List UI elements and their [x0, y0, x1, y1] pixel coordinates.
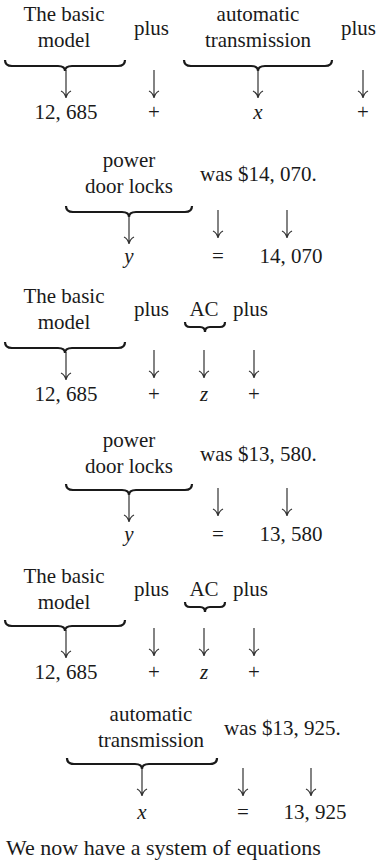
- value-total: 14, 070: [246, 244, 336, 268]
- label-transmission: transmission: [76, 728, 226, 752]
- down-arrow-icon: [122, 494, 136, 524]
- down-arrow-icon: [280, 210, 294, 240]
- label-was-total: was $13, 580.: [200, 442, 317, 466]
- label-plus: plus: [233, 297, 268, 321]
- equals-sign: =: [204, 522, 232, 546]
- label-automatic: automatic: [180, 2, 336, 26]
- label-the-basic: The basic: [0, 2, 128, 26]
- label-model: model: [0, 28, 128, 52]
- label-plus: plus: [341, 16, 376, 40]
- down-arrow-icon: [59, 70, 73, 100]
- down-arrow-icon: [197, 350, 211, 380]
- down-arrow-icon: [147, 350, 161, 380]
- variable-z: z: [190, 660, 218, 684]
- variable-z: z: [190, 382, 218, 406]
- plus-sign: +: [140, 660, 168, 684]
- equals-sign: =: [229, 800, 257, 824]
- body-text-line: We now have a system of equations: [6, 836, 321, 860]
- label-plus: plus: [134, 16, 169, 40]
- variable-x: x: [128, 800, 156, 824]
- down-arrow-icon: [356, 70, 370, 100]
- down-arrow-icon: [59, 352, 73, 382]
- label-model: model: [0, 590, 128, 614]
- down-arrow-icon: [251, 70, 265, 100]
- underbrace-icon: [184, 320, 226, 334]
- label-plus: plus: [233, 577, 268, 601]
- value-basic-price: 12, 685: [16, 100, 116, 124]
- down-arrow-icon: [135, 768, 149, 798]
- variable-x: x: [244, 100, 272, 124]
- label-door-locks: door locks: [66, 454, 192, 478]
- label-model: model: [0, 310, 128, 334]
- variable-y: y: [115, 244, 143, 268]
- down-arrow-icon: [304, 768, 318, 798]
- down-arrow-icon: [147, 628, 161, 658]
- underbrace-icon: [184, 600, 226, 614]
- variable-y: y: [115, 522, 143, 546]
- down-arrow-icon: [59, 630, 73, 660]
- down-arrow-icon: [197, 628, 211, 658]
- label-door-locks: door locks: [66, 174, 192, 198]
- down-arrow-icon: [247, 628, 261, 658]
- down-arrow-icon: [280, 488, 294, 518]
- plus-sign: +: [240, 382, 268, 406]
- value-total: 13, 580: [246, 522, 336, 546]
- label-transmission: transmission: [180, 28, 336, 52]
- plus-sign: +: [140, 100, 168, 124]
- label-power: power: [66, 148, 192, 172]
- label-the-basic: The basic: [0, 564, 128, 588]
- value-total: 13, 925: [270, 800, 360, 824]
- down-arrow-icon: [236, 768, 250, 798]
- label-power: power: [66, 428, 192, 452]
- label-plus: plus: [134, 297, 169, 321]
- plus-sign: +: [140, 382, 168, 406]
- plus-sign: +: [349, 100, 377, 124]
- equals-sign: =: [204, 244, 232, 268]
- value-basic-price: 12, 685: [16, 660, 116, 684]
- down-arrow-icon: [211, 488, 225, 518]
- value-basic-price: 12, 685: [16, 382, 116, 406]
- label-was-total: was $13, 925.: [224, 716, 341, 740]
- label-plus: plus: [134, 577, 169, 601]
- down-arrow-icon: [147, 70, 161, 100]
- down-arrow-icon: [247, 350, 261, 380]
- label-automatic: automatic: [76, 702, 226, 726]
- label-was-total: was $14, 070.: [200, 162, 317, 186]
- label-ac: AC: [186, 577, 222, 601]
- label-the-basic: The basic: [0, 284, 128, 308]
- plus-sign: +: [240, 660, 268, 684]
- label-ac: AC: [186, 297, 222, 321]
- down-arrow-icon: [122, 216, 136, 246]
- down-arrow-icon: [211, 210, 225, 240]
